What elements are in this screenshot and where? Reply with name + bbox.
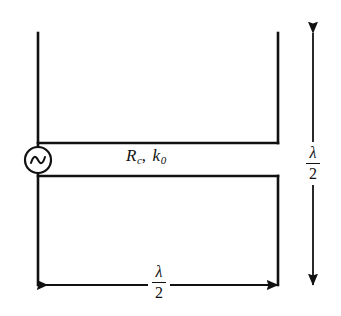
characteristic-resistance-symbol: R [126,146,137,165]
right-dimension-denominator: 2 [306,165,320,182]
ac-source-symbol [25,147,51,173]
line-constants-separator: , [142,146,148,165]
bottom-dimension-label: λ 2 [148,264,170,301]
bottom-dimension-fraction-bar [152,282,166,284]
bottom-dimension-denominator: 2 [152,284,166,301]
figure-canvas: Rc, k0 λ 2 λ 2 [0,0,341,316]
wavenumber-symbol: k [153,146,161,165]
characteristic-resistance-subscript: c [137,154,142,166]
right-dimension-label: λ 2 [303,142,323,185]
line-constants-label: Rc, k0 [126,147,166,164]
right-dimension-fraction-bar [306,163,320,165]
right-dimension-numerator: λ [306,145,320,162]
antenna-schematic-drawing [0,0,341,316]
bottom-dimension-numerator: λ [152,264,166,281]
wavenumber-subscript: 0 [161,154,167,166]
